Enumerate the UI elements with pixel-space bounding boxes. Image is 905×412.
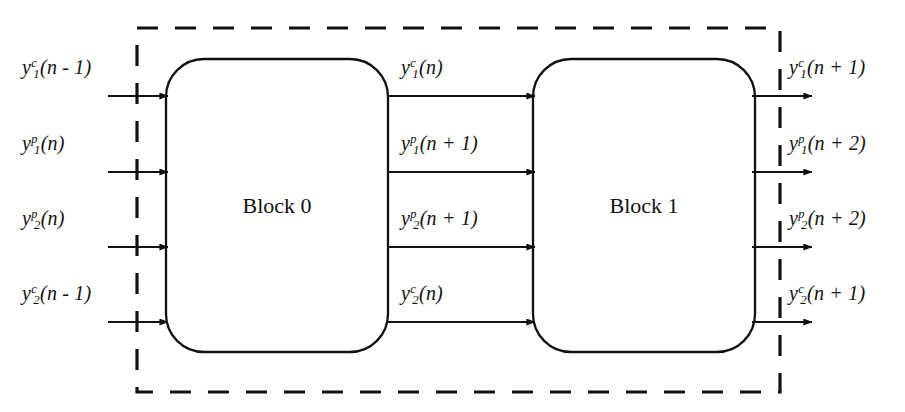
interconnect-label-4: yc2(n) — [401, 283, 443, 307]
output-label-1-base: y — [789, 56, 798, 78]
interconnect-label-3-sub: 2 — [413, 218, 420, 232]
interconnect-label-1: yc1(n) — [401, 57, 443, 81]
output-label-1-arg: (n + 1) — [807, 56, 865, 78]
input-label-2: yp1(n) — [22, 133, 65, 157]
output-label-2-arg: (n + 2) — [808, 132, 866, 154]
block-1-label: Block 1 — [609, 193, 678, 219]
interconnect-label-4-base: y — [401, 282, 410, 304]
output-label-3-arg: (n + 2) — [808, 207, 866, 229]
output-label-4-arg: (n + 1) — [807, 282, 865, 304]
input-label-3-base: y — [22, 207, 31, 229]
output-label-4: yc2(n + 1) — [789, 283, 865, 307]
output-label-2: yp1(n + 2) — [789, 133, 866, 157]
interconnect-label-4-sub: 2 — [412, 293, 419, 307]
interconnect-label-2-sub: 1 — [413, 143, 420, 157]
input-label-3-sub: 2 — [34, 218, 41, 232]
interconnect-label-1-arg: (n) — [419, 56, 443, 78]
interconnect-label-3-arg: (n + 1) — [420, 207, 478, 229]
output-label-3: yp2(n + 2) — [789, 208, 866, 232]
input-label-1-sub: 1 — [33, 67, 40, 81]
input-label-2-sub: 1 — [34, 143, 41, 157]
input-label-1: yc1(n - 1) — [22, 57, 91, 81]
output-label-3-sub: 2 — [801, 218, 808, 232]
input-label-1-base: y — [22, 56, 31, 78]
interconnect-label-2: yp1(n + 1) — [401, 133, 478, 157]
output-label-1-sub: 1 — [800, 67, 807, 81]
interconnect-label-3: yp2(n + 1) — [401, 208, 478, 232]
input-label-4-base: y — [22, 282, 31, 304]
output-label-4-sub: 2 — [800, 293, 807, 307]
output-label-2-base: y — [789, 132, 798, 154]
interconnect-label-1-base: y — [401, 56, 410, 78]
input-label-3: yp2(n) — [22, 208, 65, 232]
output-label-1: yc1(n + 1) — [789, 57, 865, 81]
interconnect-label-1-sub: 1 — [412, 67, 419, 81]
interconnect-label-2-base: y — [401, 132, 410, 154]
input-label-3-arg: (n) — [41, 207, 65, 229]
input-label-1-arg: (n - 1) — [40, 56, 91, 78]
input-label-4-arg: (n - 1) — [40, 282, 91, 304]
diagram-canvas: Block 0 Block 1 yc1(n - 1) yp1(n) yp2(n)… — [0, 0, 905, 412]
output-label-4-base: y — [789, 282, 798, 304]
block-0-label: Block 0 — [242, 193, 311, 219]
interconnect-label-3-base: y — [401, 207, 410, 229]
input-label-4: yc2(n - 1) — [22, 283, 91, 307]
input-label-2-arg: (n) — [41, 132, 65, 154]
diagram-vector-layer — [0, 0, 905, 412]
output-label-2-sub: 1 — [801, 143, 808, 157]
interconnect-label-2-arg: (n + 1) — [420, 132, 478, 154]
interconnect-label-4-arg: (n) — [419, 282, 443, 304]
input-label-4-sub: 2 — [33, 293, 40, 307]
output-label-3-base: y — [789, 207, 798, 229]
input-label-2-base: y — [22, 132, 31, 154]
